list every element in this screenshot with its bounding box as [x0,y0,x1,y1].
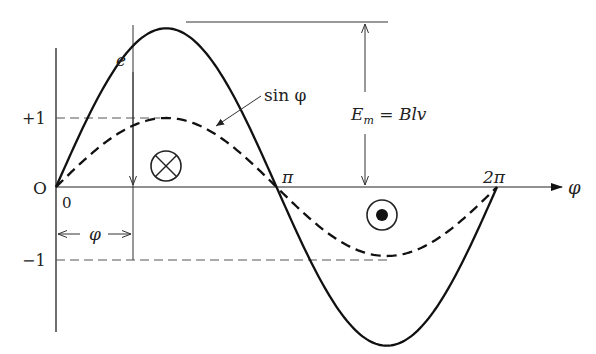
sin-leader-arrow [216,96,261,126]
diagram-canvas: O 0 +1 −1 e sin φ Em = Blv π 2π φ φ [0,0,596,354]
two-pi-label: 2π [482,167,506,187]
pi-label: π [281,167,294,187]
e-label: e [116,50,126,70]
zero-label: 0 [62,194,72,212]
em-label: Em = Blv [350,104,427,127]
phi-axis-label: φ [568,177,581,198]
out-of-page-icon [367,200,397,230]
into-page-icon [151,151,181,181]
minus-one-label: −1 [22,251,46,270]
phi-dimension-label: φ [89,224,101,244]
plus-one-label: +1 [22,109,46,128]
sin-phi-label: sin φ [264,85,307,105]
origin-label: O [33,178,47,198]
